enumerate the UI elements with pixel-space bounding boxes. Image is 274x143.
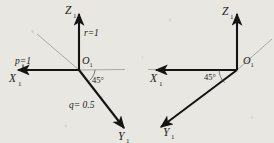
q-value-label: q= 0.5 (69, 100, 95, 110)
right-coordinate-system: Z 1 X 1 Y 1 O 1 45° (148, 5, 272, 141)
svg-text:1: 1 (126, 137, 130, 143)
z-axis-label: Z 1 (222, 5, 234, 21)
svg-text:Z: Z (222, 5, 229, 17)
coordinate-systems-figure: Z 1 X 1 Y 1 O 1 r=1 p=1 q= 0.5 45° (0, 0, 274, 143)
svg-text:1: 1 (73, 12, 77, 20)
svg-text:Y: Y (163, 126, 171, 138)
svg-text:1: 1 (251, 61, 254, 68)
svg-text:X: X (149, 72, 158, 84)
svg-text:1: 1 (230, 13, 234, 21)
y-axis-label: Y 1 (118, 130, 130, 143)
svg-text:1: 1 (171, 133, 175, 141)
z-axis-label: Z 1 (65, 4, 77, 20)
r-value-label: r=1 (84, 28, 99, 38)
svg-text:Y: Y (118, 130, 126, 142)
angle-label: 45° (204, 72, 216, 82)
x-axis-label: X 1 (8, 72, 22, 88)
guide-ray-y-negative (37, 34, 79, 70)
left-coordinate-system: Z 1 X 1 Y 1 O 1 r=1 p=1 q= 0.5 45° (8, 4, 130, 143)
origin-label: O 1 (82, 55, 93, 68)
y-axis-line (161, 70, 237, 127)
angle-label: 45° (92, 75, 104, 85)
y-axis-label: Y 1 (163, 126, 175, 141)
svg-text:1: 1 (159, 80, 163, 88)
svg-text:1: 1 (18, 80, 22, 88)
x-axis-label: X 1 (149, 72, 163, 88)
svg-text:1: 1 (90, 61, 93, 68)
svg-text:Z: Z (65, 4, 72, 16)
p-value-label: p=1 (14, 56, 31, 66)
svg-text:X: X (8, 72, 17, 84)
guide-ray-x-positive (79, 70, 125, 71)
